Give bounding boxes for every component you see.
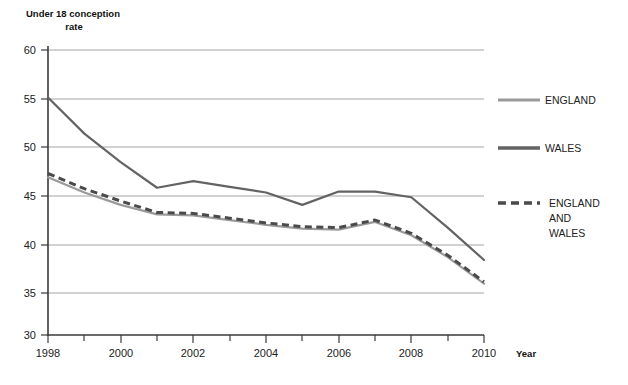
y-tick-label: 45 bbox=[24, 190, 36, 202]
y-tick-label: 55 bbox=[24, 93, 36, 105]
x-tick-label: 2008 bbox=[399, 347, 423, 359]
legend: ENGLAND WALES ENGLAND AND WALES bbox=[498, 94, 600, 239]
x-tick-marks bbox=[48, 335, 484, 343]
x-axis-title: Year bbox=[516, 348, 536, 359]
line-chart: Under 18 conception rate 60 55 bbox=[0, 0, 628, 385]
y-axis-title-line2: rate bbox=[65, 21, 82, 32]
gridlines bbox=[48, 50, 484, 293]
y-tick-labels: 60 55 50 45 40 35 30 bbox=[24, 44, 36, 341]
series-line-wales bbox=[48, 98, 484, 260]
x-tick-labels: 1998 2000 2002 2004 2006 2008 2010 bbox=[36, 347, 496, 359]
x-tick-label: 2010 bbox=[472, 347, 496, 359]
y-tick-label: 50 bbox=[24, 141, 36, 153]
y-tick-label: 30 bbox=[24, 329, 36, 341]
series-line-england-and-wales bbox=[48, 174, 484, 282]
x-tick-label: 2006 bbox=[327, 347, 351, 359]
y-tick-label: 40 bbox=[24, 239, 36, 251]
x-tick-label: 1998 bbox=[36, 347, 60, 359]
legend-label-england-and-wales-line3: WALES bbox=[549, 227, 585, 239]
y-axis-title-line1: Under 18 conception bbox=[26, 8, 120, 19]
legend-label-england: ENGLAND bbox=[545, 94, 596, 106]
x-tick-label: 2000 bbox=[109, 347, 133, 359]
legend-label-england-and-wales-line1: ENGLAND bbox=[549, 197, 600, 209]
x-tick-label: 2002 bbox=[181, 347, 205, 359]
y-tick-marks bbox=[41, 50, 48, 335]
chart-container: Under 18 conception rate 60 55 bbox=[0, 0, 628, 385]
y-tick-label: 60 bbox=[24, 44, 36, 56]
legend-label-wales: WALES bbox=[545, 142, 581, 154]
legend-label-england-and-wales-line2: AND bbox=[549, 212, 572, 224]
y-tick-label: 35 bbox=[24, 287, 36, 299]
x-tick-label: 2004 bbox=[254, 347, 278, 359]
